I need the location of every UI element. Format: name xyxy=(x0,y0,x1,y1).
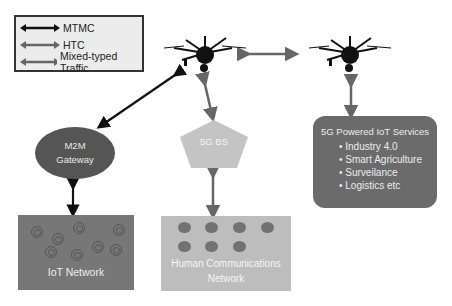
service-item: Logistics etc xyxy=(339,179,437,192)
drone-icon xyxy=(160,28,250,78)
services-title: 5G Powered IoT Services xyxy=(321,126,437,137)
user-icon xyxy=(178,222,191,233)
user-icon xyxy=(205,241,218,252)
human-network-label: Human Communications Network xyxy=(161,256,291,286)
gateway-label-line1: M2M xyxy=(35,139,115,153)
base-station-label: 5G BS xyxy=(180,136,248,147)
user-icon xyxy=(233,241,246,252)
m2m-gateway-node: M2M Gateway xyxy=(35,127,115,179)
iot-device-icon xyxy=(113,224,125,236)
human-network-label-line2: Network xyxy=(161,271,291,286)
services-list: Industry 4.0 Smart Agriculture Surveilan… xyxy=(321,140,437,192)
iot-network-label: IoT Network xyxy=(18,266,134,278)
gateway-label-line2: Gateway xyxy=(35,153,115,167)
iot-device-icon xyxy=(73,222,85,234)
service-item: Smart Agriculture xyxy=(339,153,437,166)
iot-device-icon xyxy=(31,226,43,238)
service-item: Surveilance xyxy=(339,166,437,179)
user-icon xyxy=(178,241,191,252)
user-icon xyxy=(261,222,274,233)
iot-network-box xyxy=(18,215,134,290)
service-item: Industry 4.0 xyxy=(339,140,437,153)
human-network-label-line1: Human Communications xyxy=(161,256,291,271)
drone-icon xyxy=(305,28,395,78)
iot-device-icon xyxy=(92,241,104,253)
iot-device-icon xyxy=(52,233,64,245)
user-icon xyxy=(233,222,246,233)
iot-services-box: 5G Powered IoT Services Industry 4.0 Sma… xyxy=(313,116,437,208)
iot-device-icon xyxy=(71,249,83,261)
iot-device-icon xyxy=(110,244,122,256)
iot-device-icon xyxy=(45,246,57,258)
user-icon xyxy=(205,222,218,233)
